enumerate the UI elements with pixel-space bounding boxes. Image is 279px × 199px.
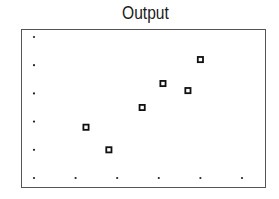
data-point-marker — [198, 57, 203, 62]
grid-dot — [241, 177, 243, 179]
data-point-marker — [160, 81, 165, 86]
grid-dot — [158, 177, 160, 179]
grid-dot — [33, 149, 35, 151]
grid-dots — [33, 36, 243, 179]
grid-dot — [75, 177, 77, 179]
data-point-marker — [140, 105, 145, 110]
data-point-marker — [106, 147, 111, 152]
grid-dot — [33, 92, 35, 94]
grid-dot — [116, 177, 118, 179]
data-markers — [83, 57, 203, 152]
grid-dot — [33, 36, 35, 38]
data-point-marker — [83, 125, 88, 130]
grid-dot — [33, 177, 35, 179]
plot-area — [0, 0, 279, 199]
grid-dot — [33, 64, 35, 66]
grid-dot — [33, 121, 35, 123]
grid-dot — [199, 177, 201, 179]
data-point-marker — [185, 88, 190, 93]
